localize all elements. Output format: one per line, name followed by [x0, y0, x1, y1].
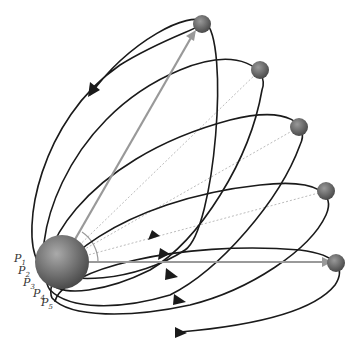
- label-p5: P5: [41, 296, 53, 311]
- planet-icon: [193, 15, 211, 33]
- trajectories: [32, 19, 340, 332]
- earth-icon: [35, 235, 89, 289]
- direction-arrows: [88, 82, 187, 338]
- planet-icon: [317, 182, 335, 200]
- planet-icon: [251, 61, 269, 79]
- orbit-diagram: [0, 0, 360, 354]
- planet-icon: [290, 118, 308, 136]
- velocity-vectors: [62, 36, 325, 262]
- planet-icon: [327, 254, 345, 272]
